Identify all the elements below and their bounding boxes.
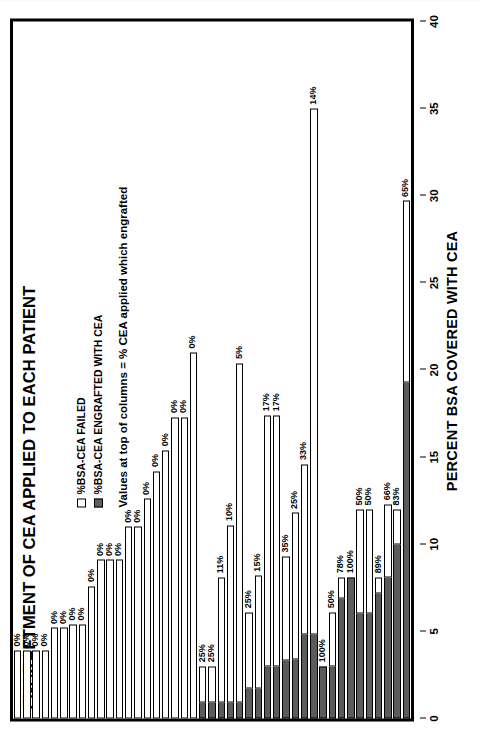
- bar-segment-failed: [329, 612, 336, 666]
- bar-segment-failed: [162, 450, 169, 718]
- bar-segment-failed: [88, 586, 95, 718]
- figure-page: ENGRAFTMENT OF CEA APPLIED TO EACH PATIE…: [0, 0, 480, 739]
- bar-row: [236, 363, 243, 718]
- bar-segment-failed: [23, 650, 30, 718]
- axis-tick: [420, 369, 426, 370]
- bar-segment-engrafted: [245, 688, 252, 718]
- axis-tick: [420, 543, 426, 544]
- axis-tick: [420, 281, 426, 282]
- bar-row: [125, 526, 132, 718]
- bar-segment-failed: [366, 509, 373, 614]
- axis-title-text: PERCENT BSA COVERED WITH CEA: [444, 230, 460, 490]
- bar-segment-failed: [227, 525, 234, 703]
- axis-tick-label: 5: [428, 628, 440, 634]
- bar-value-label: 11%: [217, 555, 224, 573]
- bar-value-label: 0%: [106, 542, 113, 555]
- bar-row: [69, 624, 76, 718]
- bar-row: [347, 577, 354, 718]
- bar-segment-engrafted: [227, 702, 234, 718]
- bar-value-label: 0%: [41, 633, 48, 646]
- bar-segment-failed: [153, 471, 160, 718]
- bar-segment-failed: [245, 612, 252, 689]
- axis-tick-label: 30: [428, 189, 440, 202]
- bar-segment-engrafted: [375, 593, 382, 718]
- axis-tick-label: 35: [428, 102, 440, 115]
- bar-segment-engrafted: [366, 613, 373, 718]
- bar-value-label: 0%: [60, 610, 67, 623]
- bar-value-label: 0%: [32, 633, 39, 646]
- bar-segment-engrafted: [384, 577, 391, 718]
- bar-value-label: 66%: [384, 482, 391, 500]
- bar-row: [51, 627, 58, 718]
- bar-value-label: 0%: [180, 400, 187, 413]
- bar-segment-failed: [134, 526, 141, 718]
- bar-row: [14, 650, 21, 718]
- bar-segment-failed: [255, 575, 262, 688]
- bar-row: [106, 559, 113, 718]
- bar-segment-failed: [199, 666, 206, 703]
- bar-segment-engrafted: [292, 659, 299, 718]
- bar-segment-failed: [375, 577, 382, 593]
- bar-segment-failed: [125, 526, 132, 718]
- bar-segment-failed: [42, 650, 49, 718]
- bar-row: [264, 415, 271, 718]
- bar-segment-failed: [301, 464, 308, 635]
- bar-value-label: 0%: [143, 481, 150, 494]
- bar-row: [88, 586, 95, 718]
- bar-segment-engrafted: [208, 702, 215, 718]
- bar-row: [32, 650, 39, 718]
- bar-segment-failed: [264, 415, 271, 666]
- bar-segment-failed: [79, 624, 86, 718]
- bar-value-label: 0%: [69, 607, 76, 620]
- bar-row: [153, 471, 160, 718]
- bar-segment-engrafted: [347, 577, 354, 718]
- axis-title: PERCENT BSA COVERED WITH CEA: [444, 0, 460, 739]
- bar-segment-failed: [282, 556, 289, 661]
- bar-value-label: 17%: [273, 393, 280, 411]
- bar-segment-failed: [69, 624, 76, 718]
- bar-value-label: 25%: [199, 644, 206, 662]
- axis-tick: [420, 456, 426, 457]
- bar-row: [23, 650, 30, 718]
- bar-value-label: 5%: [236, 346, 243, 359]
- bar-segment-failed: [106, 559, 113, 718]
- bar-row: [393, 509, 400, 718]
- bar-row: [171, 417, 178, 718]
- bar-value-label: 25%: [208, 644, 215, 662]
- bar-row: [292, 512, 299, 718]
- bar-segment-failed: [190, 352, 197, 718]
- rotation-wrapper: ENGRAFTMENT OF CEA APPLIED TO EACH PATIE…: [0, 0, 480, 739]
- bar-segment-engrafted: [403, 382, 410, 718]
- bar-row: [273, 415, 280, 718]
- bar-value-label: 83%: [393, 487, 400, 505]
- bar-value-label: 25%: [245, 590, 252, 608]
- axis-tick: [420, 20, 426, 21]
- bar-segment-failed: [14, 650, 21, 718]
- bar-segment-engrafted: [273, 666, 280, 718]
- chart-figure: ENGRAFTMENT OF CEA APPLIED TO EACH PATIE…: [0, 0, 480, 739]
- bar-segment-engrafted: [199, 702, 206, 718]
- bar-row: [218, 577, 225, 718]
- bar-value-label: 33%: [300, 442, 307, 460]
- bar-segment-failed: [144, 498, 151, 718]
- axis-tick: [420, 717, 426, 718]
- bar-row: [97, 559, 104, 718]
- bar-value-label: 0%: [189, 335, 196, 348]
- bar-row: [199, 666, 206, 718]
- bar-value-label: 0%: [88, 569, 95, 582]
- axis-tick-label: 40: [428, 15, 440, 28]
- bar-value-label: 50%: [356, 487, 363, 505]
- bar-value-label: 50%: [328, 590, 335, 608]
- bar-segment-engrafted: [236, 702, 243, 718]
- bar-segment-engrafted: [218, 702, 225, 718]
- bar-value-label: 35%: [282, 534, 289, 552]
- bar-value-label: 0%: [134, 509, 141, 522]
- axis-tick-label: 15: [428, 450, 440, 463]
- bar-segment-failed: [338, 577, 345, 598]
- bar-value-label: 50%: [365, 487, 372, 505]
- bar-segment-failed: [218, 577, 225, 702]
- bar-value-label: 0%: [115, 542, 122, 555]
- bar-segment-failed: [51, 627, 58, 718]
- bar-row: [144, 498, 151, 718]
- axis-tick-label: 25: [428, 276, 440, 289]
